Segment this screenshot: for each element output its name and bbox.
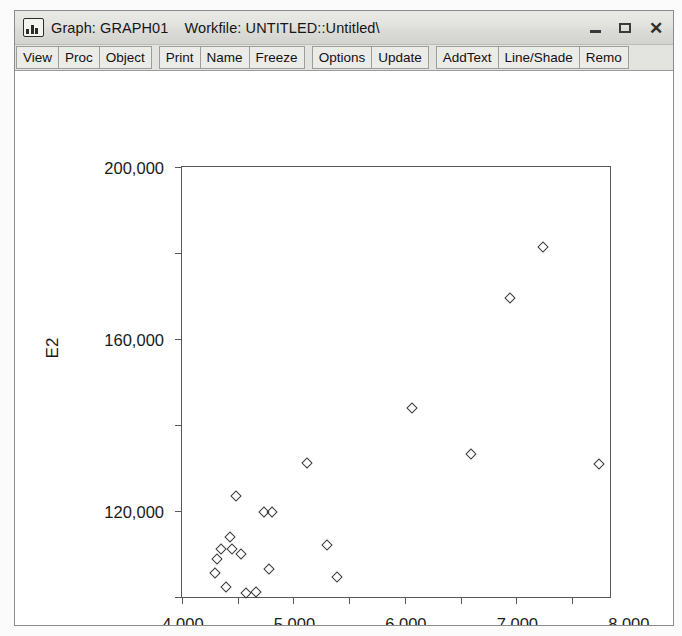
y-tick-mark: 40,000 [175, 511, 182, 512]
x-tick-mark: 11,000 [572, 597, 573, 604]
window-title-object: Graph: GRAPH01 [51, 20, 168, 36]
scatter-chart: E2 040,00080,000120,000160,000200,000 4,… [15, 71, 673, 625]
window-title-workfile: Workfile: UNTITLED::Untitled\ [184, 20, 379, 36]
toolbar-group-object: View Proc Object [16, 46, 152, 69]
toolbar-separator [305, 46, 312, 69]
x-tick-mark [516, 597, 517, 604]
toolbar-button-object[interactable]: Object [100, 46, 152, 69]
toolbar-button-proc[interactable]: Proc [59, 46, 100, 69]
maximize-icon[interactable] [618, 21, 633, 36]
data-point [235, 549, 246, 560]
toolbar-button-view[interactable]: View [16, 46, 59, 69]
data-point [302, 457, 313, 468]
data-point [267, 506, 278, 517]
data-point [321, 540, 332, 551]
data-point [504, 292, 515, 303]
page-background: Graph: GRAPH01 Workfile: UNTITLED::Untit… [0, 0, 682, 636]
data-point [406, 402, 417, 413]
toolbar: View Proc Object Print Name Freeze Optio… [15, 45, 673, 71]
x-tick-label: 5,000 [274, 615, 315, 626]
data-point [220, 582, 231, 593]
minimize-icon[interactable] [588, 21, 603, 36]
toolbar-button-freeze[interactable]: Freeze [250, 46, 305, 69]
toolbar-button-name[interactable]: Name [201, 46, 250, 69]
toolbar-separator [152, 46, 159, 69]
data-point [332, 571, 343, 582]
data-point [263, 563, 274, 574]
y-tick-mark: 120,000 [175, 339, 182, 340]
data-point [537, 241, 548, 252]
data-point [209, 568, 220, 579]
y-axis-title: E2 [43, 338, 63, 359]
toolbar-button-line-shade[interactable]: Line/Shade [499, 46, 580, 69]
data-point [250, 586, 261, 597]
y-tick-mark: 200,000 [175, 167, 182, 168]
y-tick-label: 160,000 [104, 331, 164, 350]
toolbar-button-update[interactable]: Update [372, 46, 429, 69]
x-tick-label: 7,000 [497, 615, 538, 626]
close-icon[interactable]: ✕ [648, 21, 663, 36]
x-tick-mark: 6,000 [293, 597, 294, 604]
data-point [593, 458, 604, 469]
graph-window: Graph: GRAPH01 Workfile: UNTITLED::Untit… [14, 10, 674, 626]
bar-chart-icon [23, 18, 44, 37]
toolbar-button-options[interactable]: Options [312, 46, 373, 69]
toolbar-separator [429, 46, 436, 69]
y-tick-mark: 0 [175, 597, 182, 598]
toolbar-group-file: Print Name Freeze [159, 46, 305, 69]
y-tick-mark: 80,000 [175, 425, 182, 426]
toolbar-button-print[interactable]: Print [159, 46, 201, 69]
data-point [211, 554, 222, 565]
window-titlebar: Graph: GRAPH01 Workfile: UNTITLED::Untit… [15, 11, 673, 45]
x-tick-mark: 7,000 [349, 597, 350, 604]
x-tick-mark: 9,000 [461, 597, 462, 604]
window-controls: ✕ [588, 11, 663, 45]
toolbar-group-annotate: AddText Line/Shade Remo [436, 46, 629, 69]
x-tick-label: 4,000 [162, 615, 203, 626]
data-point [465, 448, 476, 459]
y-tick-label: 200,000 [104, 159, 164, 178]
x-tick-mark: 4,000 [182, 597, 183, 604]
x-tick-mark: 8,000 [405, 597, 406, 604]
toolbar-button-remove[interactable]: Remo [580, 46, 629, 69]
toolbar-group-options: Options Update [312, 46, 429, 69]
data-point [230, 490, 241, 501]
x-tick-label: 8,000 [608, 615, 649, 626]
plot-area: 040,00080,000120,000160,000200,000 4,000… [181, 166, 611, 598]
toolbar-button-addtext[interactable]: AddText [436, 46, 499, 69]
y-tick-mark: 160,000 [175, 253, 182, 254]
x-tick-label: 6,000 [385, 615, 426, 626]
y-tick-label: 120,000 [104, 503, 164, 522]
data-point [224, 532, 235, 543]
x-tick-mark: 5,000 [238, 597, 239, 604]
